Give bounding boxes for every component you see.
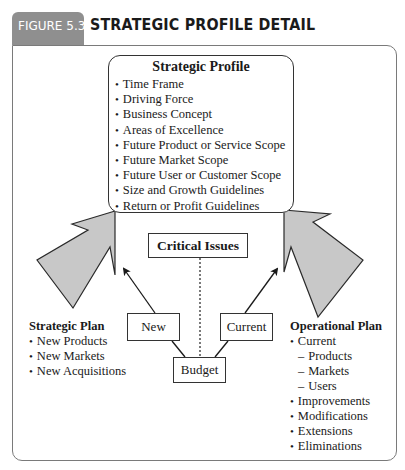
budget-to-new-line: [172, 341, 185, 357]
operational-plan-item: Eliminations: [290, 439, 370, 454]
profile-item: Areas of Excellence: [115, 123, 285, 138]
profile-item: Return or Profit Guidelines: [115, 199, 285, 214]
new-box: New: [127, 313, 180, 341]
strategic-plan-list: New Products New Markets New Acquisition…: [29, 334, 126, 379]
profile-item: Business Concept: [115, 107, 285, 122]
profile-item: Driving Force: [115, 92, 285, 107]
new-arrow: [124, 269, 155, 313]
strategic-plan-item: New Markets: [29, 349, 126, 364]
operational-plan-subitem: Products: [290, 349, 370, 364]
profile-item: Future Market Scope: [115, 153, 285, 168]
strategic-plan-item: New Acquisitions: [29, 364, 126, 379]
operational-plan-subitem: Markets: [290, 364, 370, 379]
profile-item: Size and Growth Guidelines: [115, 183, 285, 198]
strategic-profile-list: Time Frame Driving Force Business Concep…: [115, 77, 285, 214]
strategic-plan-title: Strategic Plan: [29, 319, 104, 334]
operational-plan-item: Improvements: [290, 394, 370, 409]
operational-plan-big-arrow: [284, 210, 363, 317]
strategic-profile-title: Strategic Profile: [109, 59, 293, 75]
strategic-plan-big-arrow: [37, 211, 115, 308]
operational-plan-item: Modifications: [290, 409, 370, 424]
operational-plan-title: Operational Plan: [290, 319, 382, 334]
strategic-plan-item: New Products: [29, 334, 126, 349]
profile-item: Future User or Customer Scope: [115, 168, 285, 183]
critical-issues-box: Critical Issues: [148, 233, 248, 258]
operational-plan-item: Current: [290, 334, 370, 349]
strategic-profile-box: Strategic Profile Time Frame Driving For…: [108, 55, 294, 213]
operational-plan-list: Current Products Markets Users Improveme…: [290, 334, 370, 454]
profile-item: Future Product or Service Scope: [115, 138, 285, 153]
budget-box: Budget: [173, 357, 226, 383]
profile-item: Time Frame: [115, 77, 285, 92]
operational-plan-subitem: Users: [290, 379, 370, 394]
current-box: Current: [220, 313, 273, 341]
budget-to-current-line: [215, 341, 228, 357]
current-arrow: [245, 269, 277, 313]
operational-plan-item: Extensions: [290, 424, 370, 439]
